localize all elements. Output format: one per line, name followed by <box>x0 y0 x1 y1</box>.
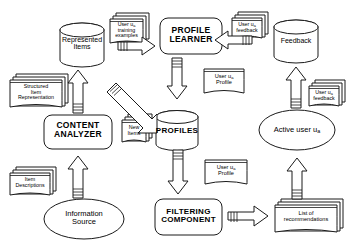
arrow-active-user-to-feedback <box>286 67 306 108</box>
doc-user-profile-lower <box>205 160 247 184</box>
node-content-analyzer <box>44 115 112 149</box>
node-active-user <box>259 110 335 150</box>
doc-item-descriptions <box>10 167 56 195</box>
arrow-information-source-to-content-analyzer <box>68 156 88 198</box>
arrow-profiles-to-filtering <box>168 150 188 194</box>
node-feedback-store <box>274 20 318 63</box>
doc-structured-item-representation <box>10 74 68 107</box>
node-represented-items <box>60 23 104 67</box>
node-information-source <box>44 199 124 239</box>
arrow-filtering-to-recommendations <box>228 206 268 226</box>
doc-list-of-recommendations <box>275 199 343 232</box>
arrow-profile-learner-to-profiles <box>167 58 187 99</box>
diagram-canvas: .sh{fill:#ffffff;stroke:#1a1a1a;stroke-w… <box>0 0 360 245</box>
node-profile-learner <box>160 18 222 54</box>
node-profiles-store <box>156 111 198 151</box>
doc-user-feedback-right <box>309 80 345 106</box>
arrow-content-analyzer-to-represented-items <box>68 70 88 113</box>
arrow-recommendations-to-active-user <box>287 158 307 199</box>
node-filtering-component <box>155 199 222 235</box>
doc-user-feedback-top <box>232 12 268 38</box>
doc-user-profile-upper <box>204 69 244 93</box>
recommender-architecture-diagram: .sh{fill:#ffffff;stroke:#1a1a1a;stroke-w… <box>0 0 360 245</box>
